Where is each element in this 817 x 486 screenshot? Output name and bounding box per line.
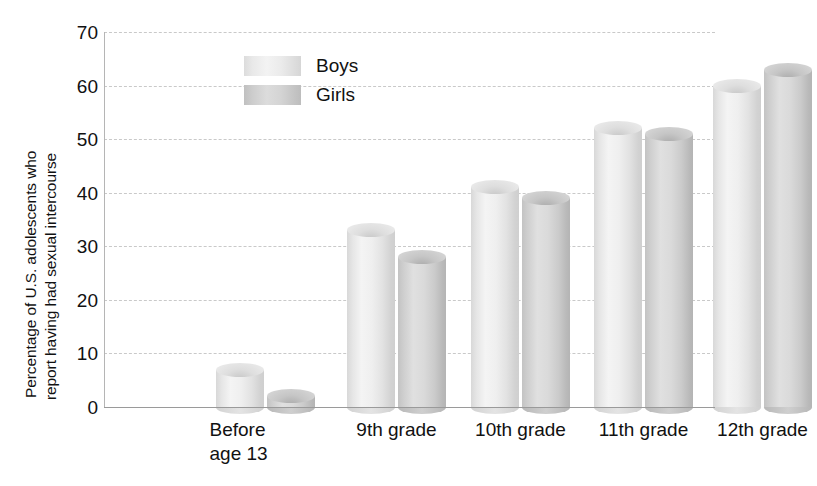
legend-swatch-girls-icon <box>244 85 301 105</box>
y-axis-tick-labels: 010203040506070 <box>64 0 98 420</box>
bar-girls-0[interactable] <box>267 389 315 407</box>
bar-girls-2[interactable] <box>522 191 570 407</box>
x-axis-label-0: Beforeage 13 <box>196 418 336 466</box>
bar-girls-1[interactable] <box>398 250 446 407</box>
bar-group <box>471 0 570 407</box>
bar-boys-1[interactable] <box>347 223 395 407</box>
x-axis-label-2: 10th grade <box>451 418 591 442</box>
y-axis-title-line-2: report having had sexual intercourse <box>42 153 60 400</box>
cylinder-body <box>347 230 395 407</box>
cylinder-body <box>522 198 570 407</box>
legend-item-boys: Boys <box>244 51 358 80</box>
cylinder-top-ellipse <box>713 79 761 93</box>
bar-girls-3[interactable] <box>645 127 693 407</box>
y-tick-label-50: 50 <box>64 130 98 149</box>
x-axis-label-line: 12th grade <box>693 418 817 442</box>
x-axis-category-labels: Beforeage 139th grade10th grade11th grad… <box>104 418 715 486</box>
y-tick-label-60: 60 <box>64 76 98 95</box>
legend-label-girls: Girls <box>316 85 355 104</box>
x-axis-line <box>104 407 715 408</box>
x-axis-label-line: 10th grade <box>451 418 591 442</box>
x-axis-label-line: age 13 <box>196 442 336 466</box>
y-tick-label-40: 40 <box>64 183 98 202</box>
y-tick-label-20: 20 <box>64 290 98 309</box>
bar-group <box>713 0 812 407</box>
cylinder-body <box>471 187 519 407</box>
cylinder-top-ellipse <box>216 363 264 377</box>
cylinder-body <box>398 257 446 407</box>
bar-boys-4[interactable] <box>713 79 761 407</box>
bar-group <box>347 0 446 407</box>
y-tick-label-30: 30 <box>64 237 98 256</box>
cylinder-body <box>764 70 812 408</box>
bar-group <box>594 0 693 407</box>
cylinder-top-ellipse <box>522 191 570 205</box>
cylinder-top-ellipse <box>764 63 812 77</box>
plot-area: Boys Girls <box>104 0 715 420</box>
y-tick-label-70: 70 <box>64 23 98 42</box>
cylinder-top-ellipse <box>398 250 446 264</box>
x-axis-label-line: 9th grade <box>327 418 467 442</box>
cylinder-body <box>645 134 693 407</box>
chart-legend: Boys Girls <box>244 51 358 109</box>
x-axis-label-4: 12th grade <box>693 418 817 442</box>
cylinder-body <box>713 86 761 407</box>
y-axis-title-line-1: Percentage of U.S. adolescents who <box>22 151 40 398</box>
legend-swatch-boys-icon <box>244 56 301 76</box>
legend-item-girls: Girls <box>244 80 358 109</box>
bars-layer <box>104 0 715 420</box>
bar-boys-0[interactable] <box>216 363 264 408</box>
x-axis-label-line: Before <box>196 418 336 442</box>
bar-boys-3[interactable] <box>594 121 642 407</box>
legend-label-boys: Boys <box>316 56 358 75</box>
y-tick-label-10: 10 <box>64 344 98 363</box>
cylinder-top-ellipse <box>645 127 693 141</box>
cylinder-body <box>594 128 642 407</box>
bar-girls-4[interactable] <box>764 63 812 408</box>
bar-boys-2[interactable] <box>471 180 519 407</box>
x-axis-label-1: 9th grade <box>327 418 467 442</box>
y-tick-label-0: 0 <box>64 398 98 417</box>
y-axis-title: Percentage of U.S. adolescents who repor… <box>0 0 62 420</box>
